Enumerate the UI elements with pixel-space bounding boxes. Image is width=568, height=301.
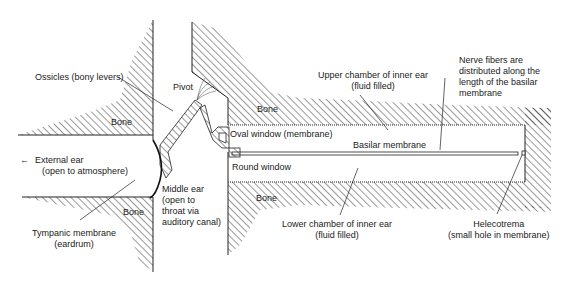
label-oval-window: Oval window (membrane) — [230, 129, 333, 140]
label-lower-chamber: Lower chamber of inner ear (fluid filled… — [282, 219, 392, 241]
label-middle-ear: Middle ear (open to throat via auditory … — [162, 184, 221, 228]
label-pivot: Pivot — [173, 82, 193, 93]
basilar-membrane — [232, 152, 518, 155]
label-external-ear: ←External ear (open to atmosphere) — [20, 155, 128, 177]
label-helecotrema: Helecotrema (small hole in membrane) — [448, 219, 550, 241]
label-bone-lower-right: Bone — [256, 193, 277, 204]
label-nerve-fibers: Nerve fibers are distributed along the l… — [459, 55, 540, 99]
label-basilar-membrane: Basilar membrane — [353, 140, 426, 151]
ear-diagram — [0, 0, 568, 301]
label-upper-chamber: Upper chamber of inner ear (fluid filled… — [318, 70, 428, 92]
label-bone-lower-left: Bone — [123, 207, 144, 218]
bone-right-end — [525, 108, 551, 208]
arrow-left-icon: ← — [20, 155, 29, 165]
round-window-block — [229, 148, 240, 157]
label-ossicles: Ossicles (bony levers) — [35, 72, 124, 83]
label-bone-left: Bone — [111, 117, 132, 128]
label-tympanic-membrane: Tympanic membrane (eardrum) — [32, 228, 116, 250]
label-round-window: Round window — [232, 162, 291, 173]
ossicles — [160, 100, 202, 178]
label-bone-upper-right: Bone — [257, 104, 278, 115]
